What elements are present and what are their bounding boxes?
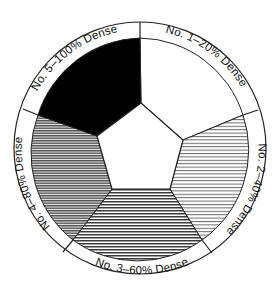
density-wheel-diagram: No. 1–20% Dense No. 2–40% Dense No. 3–60… — [0, 0, 280, 292]
